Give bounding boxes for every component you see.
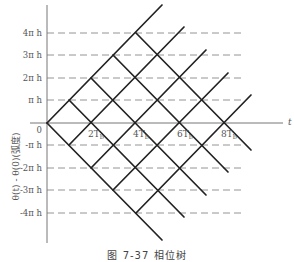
x-axis-label: t xyxy=(288,117,292,127)
x-tick-2tb: 2Tb xyxy=(88,129,104,141)
figure-caption: 图 7-37 相位树 xyxy=(0,247,294,262)
y-tick-pih: π h xyxy=(28,95,42,105)
x-tick-8tb: 8Tb xyxy=(221,129,237,141)
y-tick-2pih: 2π h xyxy=(23,73,43,83)
y-tick-neg-2pih: -2π h xyxy=(20,163,43,173)
y-tick-3pih: 3π h xyxy=(23,50,43,60)
x-tick-6tb: 6Tb xyxy=(177,129,193,141)
y-tick-neg-pih: -π h xyxy=(25,140,42,150)
y-tick-neg-4pih: -4π h xyxy=(20,208,43,218)
y-axis-title: θ(t) - θ(0)(弧度) xyxy=(9,112,22,222)
x-tick-4tb: 4Tb xyxy=(133,129,149,141)
origin-label: 0 xyxy=(37,125,42,135)
y-tick-neg-3pih: -3π h xyxy=(20,185,43,195)
y-tick-4pih: 4π h xyxy=(23,28,43,38)
